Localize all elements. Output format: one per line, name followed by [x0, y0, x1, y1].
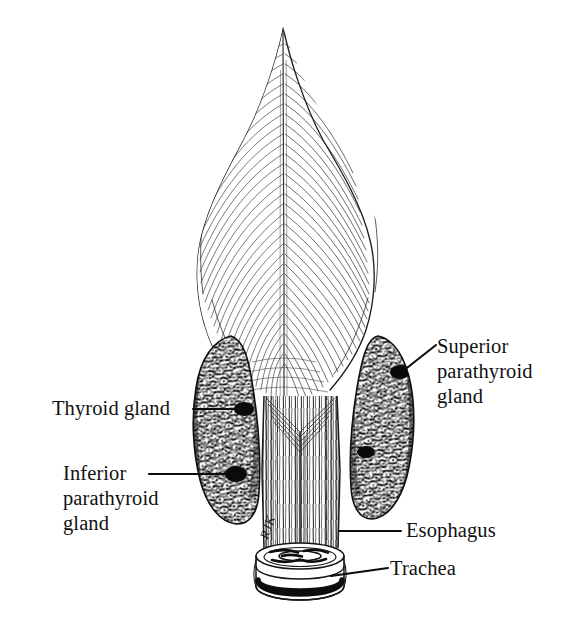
trachea [254, 543, 346, 600]
label-superior-parathyroid-gland: Superior parathyroid gland [437, 334, 576, 409]
label-inferior-parathyroid-gland: Inferior parathyroid gland [63, 461, 213, 536]
anatomical-figure: RJK Superior parathyroid gland Thyroid g… [0, 0, 576, 623]
label-thyroid-gland: Thyroid gland [52, 396, 202, 421]
inferior-parathyroid-nodule-right [357, 446, 375, 458]
label-trachea: Trachea [390, 556, 550, 581]
label-esophagus: Esophagus [406, 518, 566, 543]
